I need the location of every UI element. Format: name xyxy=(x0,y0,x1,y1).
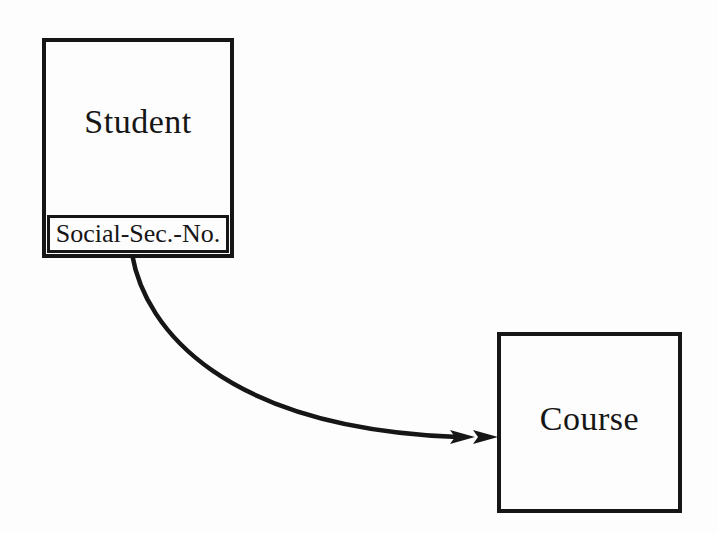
node-student-title: Student xyxy=(46,42,230,215)
node-course: Course xyxy=(497,332,682,513)
double-arrowhead-rear-icon xyxy=(450,430,475,444)
node-student-attribute-label: Social-Sec.-No. xyxy=(56,221,221,247)
node-student: Student Social-Sec.-No. xyxy=(42,38,234,258)
node-course-title: Course xyxy=(501,336,678,509)
edge-curve xyxy=(132,254,458,437)
double-arrowhead-front-icon xyxy=(473,430,498,444)
node-student-attribute-compartment: Social-Sec.-No. xyxy=(47,215,229,253)
diagram-canvas: Student Social-Sec.-No. Course xyxy=(0,0,718,533)
